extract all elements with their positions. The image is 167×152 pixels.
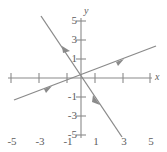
x-tick-label-1: 1 (86, 136, 106, 147)
y-tick-label-3: 3 (67, 34, 77, 45)
rising-line (14, 46, 156, 100)
falling-line-arrow-lower (92, 95, 100, 105)
y-tick-label-neg3: -3 (58, 110, 77, 121)
y-tick-label-neg1: -1 (58, 91, 77, 102)
falling-line-arrow-upper (62, 46, 70, 53)
x-tick-label-neg5: -5 (2, 136, 22, 147)
y-tick-label-5: 5 (67, 15, 77, 26)
x-tick-label-neg3: -3 (30, 136, 50, 147)
x-axis-label: x (155, 71, 159, 82)
graph-figure: 5 3 1 -1 -3 -5 -5 -3 -1 1 3 5 x y (0, 0, 167, 152)
y-tick-label-1: 1 (67, 53, 77, 64)
x-tick-label-5: 5 (141, 136, 161, 147)
coordinate-plane-svg (0, 0, 167, 152)
y-axis-label: y (84, 5, 88, 16)
x-tick-label-neg1: -1 (58, 136, 78, 147)
x-tick-label-3: 3 (114, 136, 134, 147)
